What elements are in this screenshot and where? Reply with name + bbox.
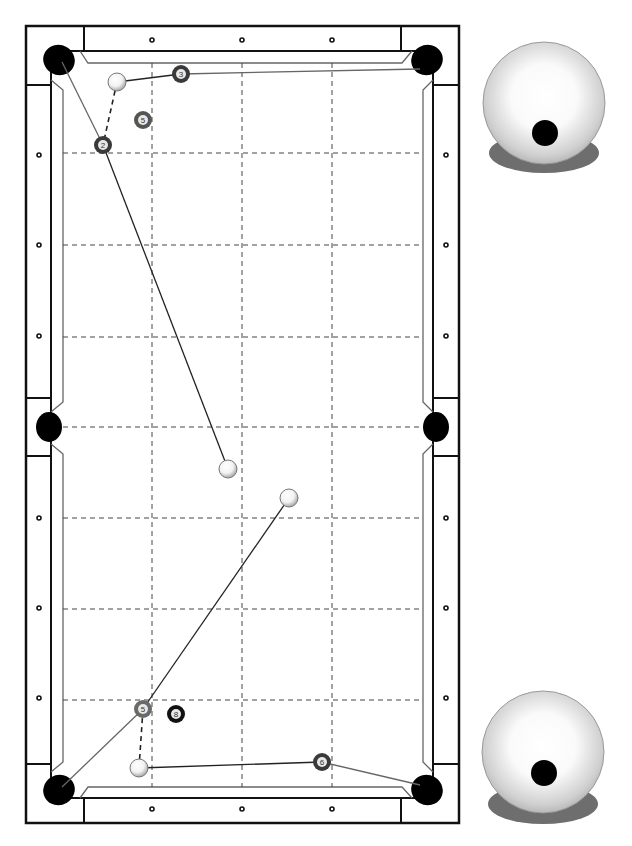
- diamond-marker: [444, 153, 448, 157]
- diamond-marker: [150, 38, 154, 42]
- diamond-marker: [444, 606, 448, 610]
- contact-point-icon: [532, 120, 558, 146]
- cue-ball-large: [482, 691, 604, 813]
- ball-number: 2: [101, 141, 106, 150]
- object-ball-8: 8: [167, 705, 185, 723]
- diamond-marker: [150, 807, 154, 811]
- diamond-marker: [37, 243, 41, 247]
- cue-ball: [108, 73, 126, 91]
- diamond-marker: [37, 516, 41, 520]
- ball-number: 5: [141, 116, 146, 125]
- ball-number: 8: [174, 710, 179, 719]
- ball-number: 3: [179, 70, 184, 79]
- diamond-marker: [444, 516, 448, 520]
- cue-ball: [130, 759, 148, 777]
- spin-indicator-bottom: [482, 691, 604, 824]
- diamond-marker: [37, 153, 41, 157]
- contact-point-icon: [531, 760, 557, 786]
- ball-number: 5: [141, 705, 146, 714]
- spin-indicator-top: [483, 42, 605, 173]
- diamond-marker: [444, 696, 448, 700]
- diamond-marker: [444, 334, 448, 338]
- cue-ball-final: [219, 460, 237, 478]
- diamond-marker: [444, 243, 448, 247]
- ball-number: 6: [320, 758, 325, 767]
- diamond-marker: [240, 38, 244, 42]
- object-ball-5: 5: [134, 111, 152, 129]
- diamond-marker: [37, 334, 41, 338]
- object-ball-6: 6: [313, 753, 331, 771]
- diamond-marker: [330, 807, 334, 811]
- pool-table-diagram: 3 5 2 5 8 6: [0, 0, 632, 846]
- cue-ball-final: [280, 489, 298, 507]
- object-ball-3: 3: [172, 65, 190, 83]
- object-ball-2: 2: [94, 136, 112, 154]
- diamond-marker: [37, 696, 41, 700]
- diamond-marker: [240, 807, 244, 811]
- diamond-marker: [330, 38, 334, 42]
- object-ball-5: 5: [134, 700, 152, 718]
- pocket-side-left: [36, 412, 62, 442]
- pocket-side-right: [423, 412, 449, 442]
- diamond-marker: [37, 606, 41, 610]
